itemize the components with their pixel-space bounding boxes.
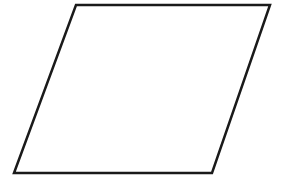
diagram-canvas: [0, 0, 285, 184]
parallelogram-diagram: [0, 0, 285, 184]
parallelogram-shape: [14, 5, 270, 173]
